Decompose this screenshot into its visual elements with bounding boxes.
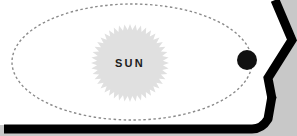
diagram-canvas: SUN [0,0,297,136]
planet-body [237,50,257,70]
orbit-diagram-svg [0,0,297,136]
